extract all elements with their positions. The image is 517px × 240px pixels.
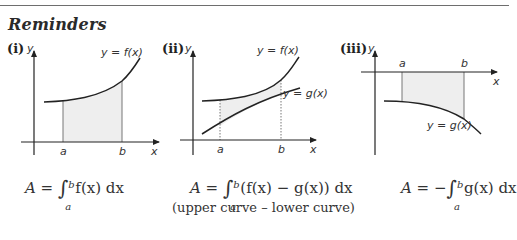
formula-lhs: A =	[25, 179, 58, 197]
figure-iii-graph	[361, 51, 497, 155]
lower-limit: a	[454, 201, 460, 212]
upper-limit: b	[233, 179, 239, 190]
figure-i-x-axis-label: x	[151, 145, 158, 158]
figure-iii-formula: A = −∫bag(x) dx	[401, 174, 517, 198]
figure-i-b-label: b	[119, 145, 126, 158]
figure-i-label: (i)	[7, 41, 24, 56]
figure-ii-lower-curve-label: y = g(x)	[283, 87, 328, 100]
integral-sign: ∫	[447, 176, 457, 200]
figure-iii-y-axis-label: y	[368, 42, 375, 55]
integral-sign: ∫	[58, 176, 68, 200]
figure-ii-formula: A = ∫ba(f(x) − g(x)) dx	[190, 174, 352, 198]
figure-iii-b-label: b	[461, 57, 468, 70]
formula-lhs: A =	[190, 179, 223, 197]
figure-ii-b-label: b	[278, 143, 285, 156]
figure-iii-shaded-area	[402, 72, 464, 119]
lower-limit: a	[65, 201, 71, 212]
figure-i-shaded-area	[63, 81, 122, 142]
figure-ii-graph	[180, 51, 316, 155]
figure-ii-upper-curve-label: y = f(x)	[257, 44, 299, 57]
integrand: f(x) dx	[75, 179, 124, 197]
figure-ii-note: (upper curve – lower curve)	[172, 200, 355, 215]
figure-i-curve-label: y = f(x)	[101, 46, 143, 59]
integrand: g(x) dx	[464, 179, 517, 197]
integral-sign: ∫	[223, 176, 233, 200]
figure-i-y-axis-label: y	[27, 42, 34, 55]
figure-ii-x-axis-label: x	[310, 143, 317, 156]
integrand: (f(x) − g(x)) dx	[240, 179, 352, 197]
figure-iii-curve-label: y = g(x)	[427, 119, 472, 132]
figure-i-a-label: a	[60, 145, 67, 158]
figure-ii-label: (ii)	[162, 41, 184, 56]
figure-ii-y-axis-label: y	[185, 42, 192, 55]
upper-limit: b	[68, 179, 74, 190]
formula-lhs: A = −	[401, 179, 447, 197]
figure-iii-label: (iii)	[340, 41, 367, 56]
figure-iii-x-axis-label: x	[493, 75, 500, 88]
figure-i-graph	[21, 51, 159, 155]
figure-iii-a-label: a	[399, 57, 406, 70]
upper-limit: b	[457, 179, 463, 190]
figure-ii-a-label: a	[217, 143, 224, 156]
figure-i-curve-f	[44, 58, 140, 102]
figure-i-formula: A = ∫baf(x) dx	[25, 174, 124, 198]
